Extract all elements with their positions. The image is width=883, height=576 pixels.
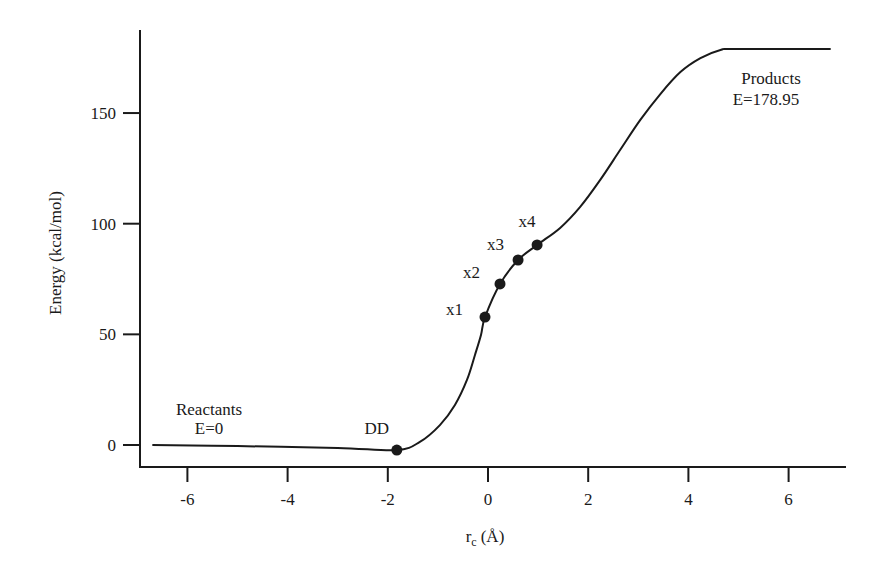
x-axis-title: rc(Å)	[466, 527, 505, 549]
x-axis-title-unit: (Å)	[481, 527, 505, 546]
x-tick-label: 6	[784, 490, 793, 509]
x-tick-label: 2	[584, 490, 593, 509]
point-x1-marker	[479, 312, 490, 323]
y-ticks: 050100150	[91, 104, 141, 455]
y-tick-label: 150	[91, 104, 117, 123]
x-tick-label: 4	[684, 490, 693, 509]
marked-points: DDx1x2x3x4	[365, 212, 543, 456]
reactants-energy-label: E=0	[195, 419, 223, 438]
point-dd-marker	[391, 445, 402, 456]
point-x2-marker	[495, 278, 506, 289]
y-tick-label: 100	[91, 215, 117, 234]
energy-profile-chart: 050100150 -6-4-20246 DDx1x2x3x4 Reactant…	[0, 0, 883, 576]
point-x3-marker	[513, 254, 524, 265]
x-axis-title-sub: c	[471, 535, 476, 549]
y-tick-label: 0	[108, 436, 117, 455]
point-x2-label: x2	[463, 263, 480, 282]
x-tick-label: -4	[281, 490, 296, 509]
x-tick-label: -6	[180, 490, 194, 509]
point-x4-label: x4	[519, 212, 537, 231]
x-ticks: -6-4-20246	[180, 467, 793, 509]
point-x1-label: x1	[446, 300, 463, 319]
products-label: Products	[741, 69, 801, 88]
point-x3-label: x3	[487, 235, 504, 254]
point-dd-label: DD	[365, 419, 390, 438]
point-x4-marker	[532, 239, 543, 250]
y-axis-title: Energy (kcal/mol)	[46, 191, 65, 315]
y-tick-label: 50	[99, 325, 116, 344]
products-energy-label: E=178.95	[733, 90, 800, 109]
x-tick-label: -2	[381, 490, 395, 509]
x-tick-label: 0	[484, 490, 493, 509]
reactants-label: Reactants	[176, 400, 242, 419]
